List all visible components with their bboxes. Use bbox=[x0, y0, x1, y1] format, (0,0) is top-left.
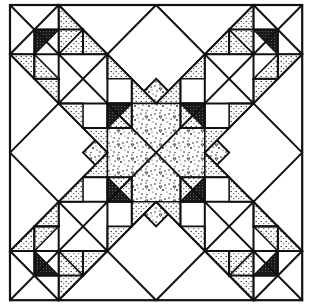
dotted-triangle-bottom-right bbox=[254, 226, 278, 251]
quilt-block-diagram bbox=[0, 0, 311, 306]
dotted-triangle-top-right bbox=[254, 54, 278, 79]
quilt-block bbox=[10, 5, 302, 300]
dotted-triangle-bottom-left bbox=[34, 226, 58, 251]
dotted-triangle-top-left bbox=[34, 54, 58, 79]
